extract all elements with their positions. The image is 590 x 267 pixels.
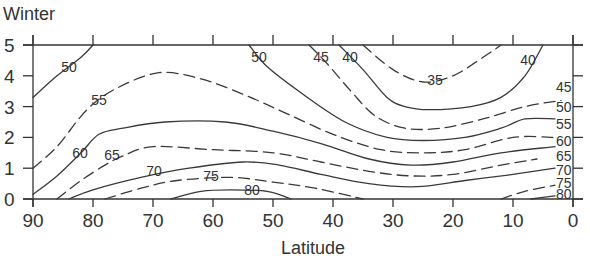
x-tick-label: 70 <box>142 210 163 231</box>
contour-label-50: 50 <box>61 59 77 75</box>
contour-line-50 <box>249 45 555 141</box>
contour-line-70 <box>69 162 555 199</box>
contour-label-50-top: 50 <box>251 49 267 65</box>
contour-lines <box>33 45 561 199</box>
contour-label-80: 80 <box>244 182 260 198</box>
contour-label-45-top: 45 <box>313 49 329 65</box>
x-tick-label: 50 <box>262 210 283 231</box>
x-axis-label: Latitude <box>281 238 345 258</box>
y-tick-labels: 5 4 3 2 1 0 <box>4 35 15 210</box>
x-tick-label: 40 <box>322 210 343 231</box>
contour-line-80 <box>171 190 291 199</box>
x-tick-labels: 90 80 70 60 50 40 30 20 10 0 <box>22 210 578 231</box>
contour-label-40-right: 40 <box>520 52 536 68</box>
contour-label-60: 60 <box>72 145 88 161</box>
right-edge-contour-labels: 45 50 55 60 65 70 75 80 <box>556 79 572 202</box>
contour-label-65: 65 <box>104 147 120 163</box>
y-tick-label: 4 <box>4 66 15 87</box>
y-tick-label: 5 <box>4 35 15 56</box>
contour-chart: Winter 5 4 3 2 1 0 90 80 70 60 50 40 30 … <box>0 0 590 267</box>
contour-line-75 <box>105 177 363 199</box>
right-label-55: 55 <box>556 116 572 132</box>
y-tick-label: 2 <box>4 127 15 148</box>
chart-title: Winter <box>3 4 55 24</box>
right-label-80: 80 <box>556 186 572 202</box>
x-tick-label: 90 <box>22 210 43 231</box>
right-label-60: 60 <box>556 133 572 149</box>
x-tick-label: 30 <box>382 210 403 231</box>
right-label-50: 50 <box>556 99 572 115</box>
contour-label-35: 35 <box>427 72 443 88</box>
x-tick-label: 10 <box>502 210 523 231</box>
x-tick-label: 20 <box>442 210 463 231</box>
x-tick-label: 60 <box>202 210 223 231</box>
contour-label-40-top: 40 <box>342 49 358 65</box>
contour-label-75: 75 <box>203 168 219 184</box>
x-tick-label: 80 <box>82 210 103 231</box>
y-tick-label: 3 <box>4 97 15 118</box>
right-label-45: 45 <box>556 79 572 95</box>
y-tick-label: 0 <box>4 189 15 210</box>
x-tick-label: 0 <box>568 210 579 231</box>
y-tick-label: 1 <box>4 158 15 179</box>
contour-label-70: 70 <box>146 163 162 179</box>
contour-label-55: 55 <box>91 92 107 108</box>
